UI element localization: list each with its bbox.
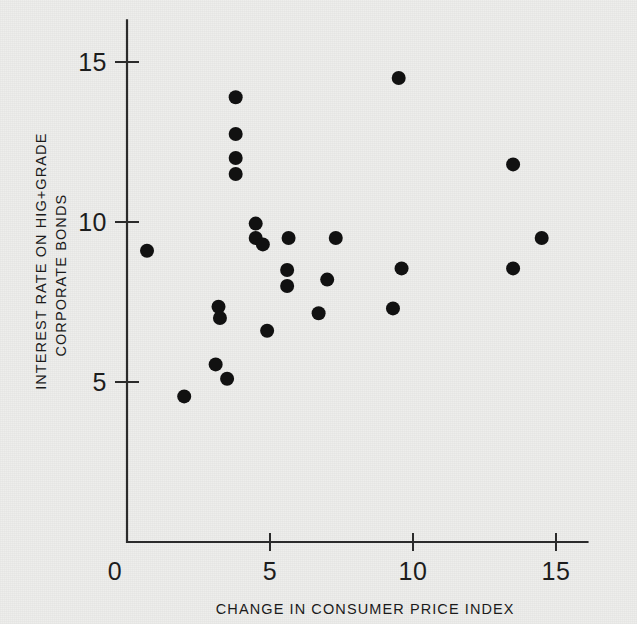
x-tick-labels: 051015 [108,557,571,585]
y-tick-label-10: 10 [78,208,107,236]
data-point [320,273,334,287]
x-tick-label-10: 10 [399,557,428,585]
y-tick-label-5: 5 [93,368,107,396]
data-point [506,157,520,171]
data-point [229,90,243,104]
data-point [140,244,154,258]
x-tick-label-5: 5 [263,557,277,585]
data-point [395,261,409,275]
data-point [506,261,520,275]
data-point [177,389,191,403]
data-point [256,237,270,251]
data-point [280,279,294,293]
data-point [312,306,326,320]
y-axis-title-line2: CORPORATE BONDS [53,194,69,357]
data-point [280,263,294,277]
data-point [249,217,263,231]
data-point [229,167,243,181]
data-point [535,231,549,245]
y-axis-title-line1: INTEREST RATE ON HIG+GRADE [33,133,49,390]
data-point [209,357,223,371]
chart-page: 051015 51015 CHANGE IN CONSUMER PRICE IN… [0,0,637,624]
data-point [229,127,243,141]
data-point [282,231,296,245]
x-tick-label-0: 0 [108,557,122,585]
x-tick-label-15: 15 [542,557,571,585]
data-point [229,151,243,165]
y-tick-labels: 51015 [78,48,107,396]
axis-lines [127,20,587,542]
y-tick-label-15: 15 [78,48,107,76]
axes [127,20,587,542]
x-axis-title: CHANGE IN CONSUMER PRICE INDEX [216,601,515,617]
data-point [392,71,406,85]
data-point [220,372,234,386]
data-point [260,324,274,338]
scatter-plot: 051015 51015 CHANGE IN CONSUMER PRICE IN… [0,0,637,624]
data-point [329,231,343,245]
data-points [140,71,549,403]
tick-marks [115,62,556,551]
data-point [213,311,227,325]
data-point [386,301,400,315]
